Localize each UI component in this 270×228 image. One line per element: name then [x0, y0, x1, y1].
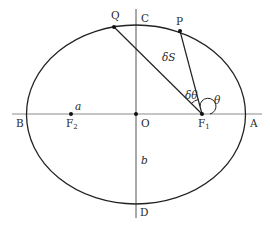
label-b: b	[141, 154, 148, 166]
label-b-point: B	[16, 117, 24, 129]
label-f1-main: F	[198, 117, 205, 129]
point-f1	[200, 112, 204, 116]
label-a-point: A	[249, 117, 258, 129]
label-p: P	[176, 15, 183, 27]
label-f2-sub: 2	[73, 123, 77, 131]
radius-f1-p	[180, 31, 202, 114]
label-o: O	[141, 117, 150, 129]
label-f2: F2	[66, 117, 78, 131]
point-q	[112, 25, 116, 29]
label-f1: F1	[198, 117, 210, 131]
point-f2	[69, 112, 73, 116]
label-a: a	[75, 100, 81, 112]
label-c: C	[141, 12, 149, 24]
point-o	[134, 112, 138, 116]
label-f1-sub: 1	[205, 123, 209, 131]
ellipse-diagram: Q C P δS δθ θ a b B F2 O F1 A D	[0, 0, 270, 228]
label-q: Q	[111, 9, 120, 21]
label-delta-theta: δθ	[185, 89, 198, 101]
label-f2-main: F	[66, 117, 73, 129]
point-p	[178, 29, 182, 33]
label-delta-s: δS	[162, 51, 176, 63]
label-theta: θ	[214, 94, 221, 106]
label-d: D	[140, 206, 148, 218]
